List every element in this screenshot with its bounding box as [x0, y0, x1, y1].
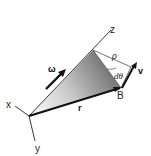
point-b-label: B [117, 90, 124, 101]
swept-triangle [29, 50, 121, 116]
dtheta-label: dθ [114, 71, 124, 81]
x-axis-label: x [6, 99, 11, 110]
y-axis [29, 116, 35, 141]
velocity-label: v [138, 66, 143, 76]
diagram-svg: z x y ω ρ dθ v B r [0, 0, 151, 156]
r-label: r [78, 103, 82, 113]
omega-label: ω [48, 64, 56, 74]
dtheta-arc [107, 68, 116, 69]
y-axis-label: y [35, 143, 40, 154]
velocity-vector-v [122, 66, 134, 88]
rho-label: ρ [111, 50, 117, 61]
x-axis [15, 106, 29, 116]
rotation-diagram: z x y ω ρ dθ v B r [0, 0, 151, 156]
z-axis-label: z [110, 24, 115, 35]
